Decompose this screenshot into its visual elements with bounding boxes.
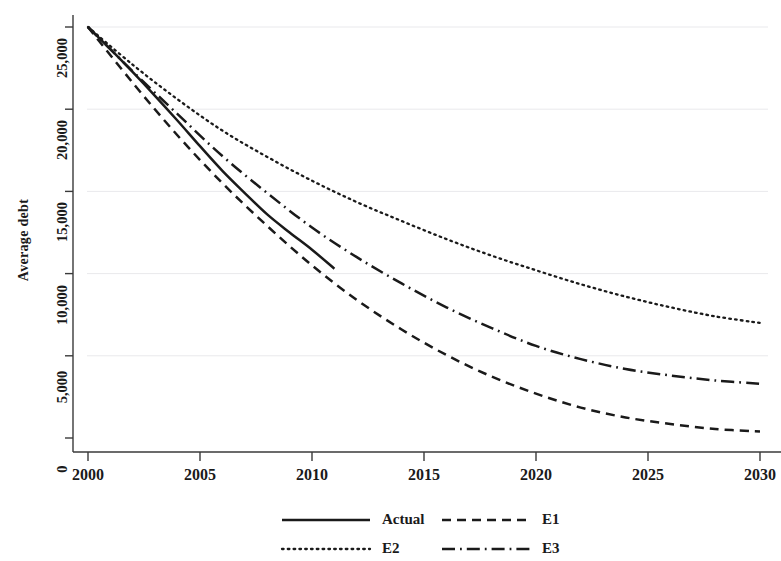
chart-figure: Average debt 05,00010,00015,00020,00025,… [0,0,781,561]
y-tick-label: 10,000 [54,274,71,336]
x-tick-label: 2000 [72,466,104,484]
x-tick-label: 2020 [520,466,552,484]
legend-line-sample [440,543,532,555]
x-tick-label: 2015 [408,466,440,484]
legend-item-e2[interactable]: E2 [280,540,440,557]
y-tick-label: 0 [54,438,71,500]
y-tick-label: 15,000 [54,191,71,253]
series-line-e3 [88,27,760,384]
legend-label: E2 [382,540,400,557]
series-line-e2 [88,27,760,323]
legend-item-e1[interactable]: E1 [440,511,610,528]
data-series [88,27,760,431]
x-tick-label: 2010 [296,466,328,484]
legend-label: E1 [542,511,560,528]
x-tick-label: 2030 [744,466,776,484]
legend-label: Actual [382,511,425,528]
chart-legend: ActualE1E2E3 [280,505,700,561]
legend-line-sample [280,543,372,555]
legend-item-actual[interactable]: Actual [280,511,440,528]
y-tick-label: 20,000 [54,109,71,171]
legend-line-sample [280,514,372,526]
y-tick-label: 25,000 [54,27,71,89]
x-tick-label: 2005 [184,466,216,484]
y-axis-title: Average debt [16,170,32,310]
y-tick-label: 5,000 [54,356,71,418]
axes [73,15,781,452]
x-tick-label: 2025 [632,466,664,484]
legend-item-e3[interactable]: E3 [440,540,610,557]
legend-line-sample [440,514,532,526]
legend-label: E3 [542,540,560,557]
